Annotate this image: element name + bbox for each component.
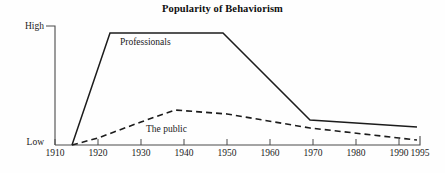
series-line-the-public xyxy=(72,110,417,145)
x-tick-label-1910: 1910 xyxy=(35,148,75,158)
x-tick-label-1995: 1995 xyxy=(400,148,440,158)
x-tick-label-1960: 1960 xyxy=(250,148,290,158)
x-tick-label-1930: 1930 xyxy=(121,148,161,158)
y-axis-label-high: High xyxy=(8,21,44,31)
y-axis-label-low: Low xyxy=(8,137,44,147)
x-axis-line xyxy=(55,136,420,145)
x-tick-label-1980: 1980 xyxy=(336,148,376,158)
x-tick-label-1950: 1950 xyxy=(207,148,247,158)
x-tick-label-1920: 1920 xyxy=(78,148,118,158)
series-annotation-the-public: The public xyxy=(146,124,187,134)
x-tick-label-1970: 1970 xyxy=(293,148,333,158)
series-annotation-professionals: Professionals xyxy=(120,37,171,47)
y-axis-line xyxy=(46,26,55,145)
x-tick-label-1940: 1940 xyxy=(164,148,204,158)
chart-figure: Popularity of Behaviorism High Low 1910 … xyxy=(0,0,445,173)
x-axis-ticks xyxy=(55,139,399,145)
